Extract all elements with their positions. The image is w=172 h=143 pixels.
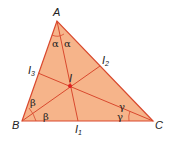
triangle-abc [22, 21, 153, 121]
vertex-label-a: A [52, 6, 60, 18]
incenter-label: I [69, 72, 72, 84]
vertex-label-b: B [12, 119, 19, 131]
triangle-diagram: A B C I I1 I2 I3 α α β β γ γ [0, 0, 172, 143]
angle-label-alpha-left: α [52, 38, 59, 49]
angle-label-beta-lower: β [43, 111, 49, 122]
angle-label-gamma-lower: γ [117, 111, 123, 122]
foot-label-i1: I1 [75, 123, 82, 136]
angle-label-beta-upper: β [30, 97, 36, 108]
incenter-point [68, 84, 72, 88]
foot-label-i3: I3 [28, 64, 35, 77]
angle-label-alpha-right: α [64, 38, 71, 49]
vertex-label-c: C [155, 119, 163, 131]
foot-label-i2: I2 [102, 54, 109, 67]
